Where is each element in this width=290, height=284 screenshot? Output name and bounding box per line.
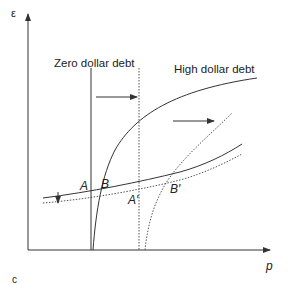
point-a-prime-label: A′ [128,194,138,206]
upward-sloping-curve-shifted [43,154,242,203]
point-b-label: B [101,178,109,190]
diagram-canvas [0,0,290,284]
y-axis-label: ε [11,8,16,19]
x-axis-label: p [266,260,273,272]
point-b-prime-label: B′ [170,183,180,195]
panel-label: c [12,275,17,284]
zero-dollar-debt-label: Zero dollar debt [54,58,135,70]
high-dollar-debt-curve [93,78,257,250]
upward-sloping-curve [43,144,242,198]
high-dollar-debt-curve-shifted [145,113,232,250]
point-a-label: A [80,180,88,192]
high-dollar-debt-label: High dollar debt [174,64,255,76]
